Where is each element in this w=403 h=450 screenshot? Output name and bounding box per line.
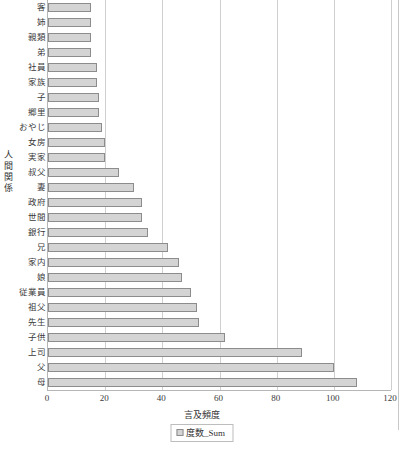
- bar[interactable]: [48, 363, 334, 372]
- bar[interactable]: [48, 378, 357, 387]
- x-axis-tick-label: 120: [383, 393, 397, 403]
- bar-row[interactable]: [48, 288, 191, 297]
- x-axis-tick-label: 40: [157, 393, 166, 403]
- bar-row[interactable]: [48, 318, 199, 327]
- bar[interactable]: [48, 348, 302, 357]
- bar-row[interactable]: [48, 48, 91, 57]
- y-axis-category-label: 子: [16, 93, 46, 102]
- bar-row[interactable]: [48, 213, 142, 222]
- gridline: [334, 0, 335, 390]
- y-axis-category-label: 姉: [16, 18, 46, 27]
- bar[interactable]: [48, 153, 105, 162]
- bar[interactable]: [48, 3, 91, 12]
- gridline: [277, 0, 278, 390]
- bar-row[interactable]: [48, 78, 97, 87]
- y-axis-category-label: 女房: [16, 138, 46, 147]
- y-axis-category-label: 上司: [16, 348, 46, 357]
- x-axis-title: 言及頻度: [0, 408, 403, 421]
- bar-row[interactable]: [48, 3, 91, 12]
- bar-row[interactable]: [48, 93, 99, 102]
- gridline: [391, 0, 392, 390]
- bar-row[interactable]: [48, 18, 91, 27]
- bar-row[interactable]: [48, 108, 99, 117]
- bar[interactable]: [48, 78, 97, 87]
- bar[interactable]: [48, 123, 102, 132]
- x-axis-tick-label: 80: [271, 393, 280, 403]
- x-axis-tick-label: 0: [45, 393, 50, 403]
- bar[interactable]: [48, 108, 99, 117]
- legend-series-label: 度数_Sum: [186, 426, 225, 439]
- bar[interactable]: [48, 33, 91, 42]
- bar[interactable]: [48, 198, 142, 207]
- bar-row[interactable]: [48, 348, 302, 357]
- gridline: [162, 0, 163, 390]
- legend-swatch-icon: [176, 429, 183, 436]
- y-axis-category-label: 子供: [16, 333, 46, 342]
- bar-row[interactable]: [48, 258, 179, 267]
- y-axis-category-label: 従業員: [16, 288, 46, 297]
- y-axis-category-label: 郷里: [16, 108, 46, 117]
- y-axis-category-label: 銀行: [16, 228, 46, 237]
- bar[interactable]: [48, 258, 179, 267]
- y-axis-category-label: おやじ: [16, 123, 46, 132]
- bar-row[interactable]: [48, 63, 97, 72]
- bar[interactable]: [48, 288, 191, 297]
- y-axis-category-label: 妻: [16, 183, 46, 192]
- bar[interactable]: [48, 213, 142, 222]
- plot-wrapper: 客姉親類弟社員家族子郷里おやじ女房実家叔父妻政府世間銀行兄家内娘従業員祖父先生子…: [0, 0, 403, 392]
- x-axis-tick-label: 20: [100, 393, 109, 403]
- y-axis-category-label: 叔父: [16, 168, 46, 177]
- y-axis-category-label: 祖父: [16, 303, 46, 312]
- bar-row[interactable]: [48, 243, 168, 252]
- bar[interactable]: [48, 333, 225, 342]
- y-axis-category-label: 実家: [16, 153, 46, 162]
- y-axis-category-label: 客: [16, 3, 46, 12]
- bar-row[interactable]: [48, 333, 225, 342]
- bar-row[interactable]: [48, 363, 334, 372]
- bar[interactable]: [48, 273, 182, 282]
- bar[interactable]: [48, 138, 105, 147]
- bar[interactable]: [48, 48, 91, 57]
- x-axis-tick-label: 100: [326, 393, 340, 403]
- y-axis-category-label: 兄: [16, 243, 46, 252]
- bar-row[interactable]: [48, 378, 357, 387]
- bar[interactable]: [48, 303, 197, 312]
- bar-row[interactable]: [48, 273, 182, 282]
- y-axis-category-label: 先生: [16, 318, 46, 327]
- gridline: [105, 0, 106, 390]
- y-axis-category-labels: 客姉親類弟社員家族子郷里おやじ女房実家叔父妻政府世間銀行兄家内娘従業員祖父先生子…: [16, 0, 46, 390]
- bar[interactable]: [48, 93, 99, 102]
- bar[interactable]: [48, 243, 168, 252]
- y-axis-category-label: 社員: [16, 63, 46, 72]
- gridline: [220, 0, 221, 390]
- bar-row[interactable]: [48, 138, 105, 147]
- bar-row[interactable]: [48, 33, 91, 42]
- bar-row[interactable]: [48, 183, 134, 192]
- bar-row[interactable]: [48, 168, 119, 177]
- bar-row[interactable]: [48, 198, 142, 207]
- y-axis-category-label: 弟: [16, 48, 46, 57]
- bar[interactable]: [48, 183, 134, 192]
- bar-row[interactable]: [48, 303, 197, 312]
- x-axis-tick-label: 60: [214, 393, 223, 403]
- bar[interactable]: [48, 63, 97, 72]
- y-axis-category-label: 政府: [16, 198, 46, 207]
- bar[interactable]: [48, 318, 199, 327]
- chart-legend: 度数_Sum: [170, 424, 233, 442]
- y-axis-category-label: 娘: [16, 273, 46, 282]
- y-axis-category-label: 母: [16, 378, 46, 387]
- bar[interactable]: [48, 18, 91, 27]
- bar-row[interactable]: [48, 123, 102, 132]
- y-axis-category-label: 親類: [16, 33, 46, 42]
- plot-area: [47, 0, 391, 391]
- bar-row[interactable]: [48, 228, 148, 237]
- y-axis-category-label: 家族: [16, 78, 46, 87]
- bar[interactable]: [48, 168, 119, 177]
- y-axis-category-label: 父: [16, 363, 46, 372]
- y-axis-category-label: 家内: [16, 258, 46, 267]
- bar-row[interactable]: [48, 153, 105, 162]
- y-axis-category-label: 世間: [16, 213, 46, 222]
- bar[interactable]: [48, 228, 148, 237]
- bar-chart: 人 間 関 係 客姉親類弟社員家族子郷里おやじ女房実家叔父妻政府世間銀行兄家内娘…: [0, 0, 403, 450]
